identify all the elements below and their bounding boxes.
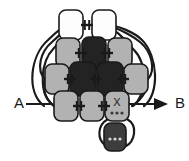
node-dot-marker: [115, 111, 118, 114]
graph-node: [104, 123, 126, 151]
nodes-layer: [45, 10, 148, 151]
arc-edge: [126, 119, 134, 146]
node-letter-label: X: [113, 96, 121, 108]
terminal-label-b: B: [175, 94, 185, 111]
node-dot-marker: [108, 137, 111, 140]
node-dot-marker: [110, 111, 113, 114]
node-dot-marker: [120, 111, 123, 114]
graph-node: [92, 10, 116, 40]
graph-node: [59, 10, 83, 40]
terminal-label-a: A: [14, 94, 24, 111]
network-diagram: XAB: [0, 0, 189, 161]
diagram-canvas: XAB: [0, 0, 189, 161]
node-dot-marker: [118, 137, 121, 140]
node-dot-marker: [113, 137, 116, 140]
